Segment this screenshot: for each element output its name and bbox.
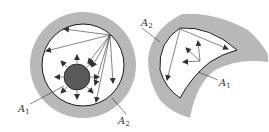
left-panel: A1 A2 (17, 12, 136, 128)
right-panel: A2 A1 (140, 14, 268, 118)
body-a1 (64, 64, 90, 90)
radiation-enclosure-diagram: A1 A2 A2 A1 (0, 0, 269, 132)
label-a1-right: A1 (218, 77, 231, 90)
label-a1-left: A1 (17, 103, 30, 116)
label-a2-right: A2 (140, 17, 153, 30)
label-a2-left: A2 (117, 115, 130, 128)
